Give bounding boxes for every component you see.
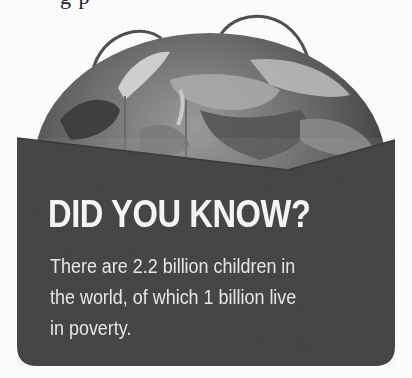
fact-text: There are 2.2 billion children in the wo… <box>50 251 354 344</box>
fact-line-2: the world, of which 1 billion live <box>50 282 354 313</box>
fact-line-1: There are 2.2 billion children in <box>50 251 354 282</box>
fact-line-3: in poverty. <box>50 313 354 344</box>
headline: DID YOU KNOW? <box>48 192 311 236</box>
